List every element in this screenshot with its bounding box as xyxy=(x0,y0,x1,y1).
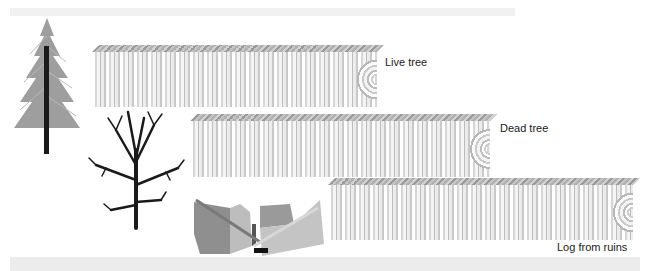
live-tree-log-section xyxy=(92,45,377,107)
top-band xyxy=(10,8,515,16)
ruins-building-icon xyxy=(190,194,330,259)
caption-band xyxy=(10,257,640,271)
label-live-tree: Live tree xyxy=(385,56,427,68)
log-top-face xyxy=(92,45,384,52)
dead-tree-icon xyxy=(86,110,186,230)
log-top-face xyxy=(328,178,640,185)
log-tree-rings xyxy=(92,52,377,107)
ruins-log-section xyxy=(328,178,633,240)
live-conifer-tree-icon xyxy=(10,16,85,156)
label-dead-tree: Dead tree xyxy=(500,122,548,134)
dead-tree-log-section xyxy=(190,114,490,177)
log-tree-rings xyxy=(328,185,633,240)
log-top-face xyxy=(190,114,497,121)
log-tree-rings xyxy=(190,121,490,177)
label-log-from-ruins: Log from ruins xyxy=(557,241,627,253)
